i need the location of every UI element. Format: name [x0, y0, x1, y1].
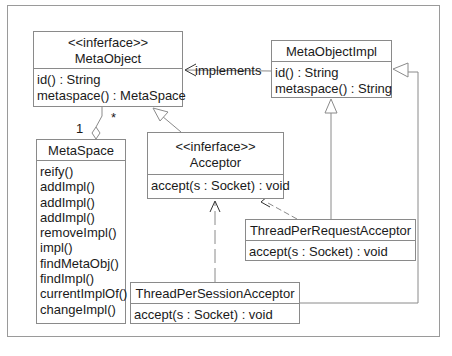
operation: currentImplOf(): [40, 286, 122, 301]
operations-compartment: id() : String metaspace() : String: [272, 62, 391, 98]
operation: findMetaObj(): [40, 256, 122, 271]
operation: accept(s : Socket) : void: [134, 307, 296, 323]
operation: removeImpl(): [40, 225, 122, 240]
class-header: ThreadPerRequestAcceptor: [246, 220, 415, 241]
stereotype-label: <<inferface>>: [36, 35, 180, 51]
class-threadperrequestacceptor[interactable]: ThreadPerRequestAcceptor accept(s : Sock…: [245, 219, 416, 261]
class-name: ThreadPerRequestAcceptor: [248, 223, 413, 239]
class-metaobject[interactable]: <<inferface>> MetaObject id() : String m…: [33, 31, 183, 107]
operation: accept(s : Socket) : void: [249, 244, 412, 260]
class-name: Acceptor: [150, 155, 281, 171]
operation: addImpl(): [40, 210, 122, 225]
stereotype-label: <<inferface>>: [150, 139, 281, 155]
operations-compartment: id() : String metaspace() : MetaSpace: [34, 69, 182, 105]
class-name: MetaSpace: [39, 143, 123, 159]
class-header: <<inferface>> Acceptor: [148, 133, 283, 175]
acceptor-extends-line: [162, 116, 181, 132]
class-name: ThreadPerSessionAcceptor: [133, 286, 297, 302]
aggregation-line: [96, 107, 102, 127]
class-header: ThreadPerSessionAcceptor: [131, 283, 299, 304]
aggregation-diamond-icon: [92, 127, 100, 139]
implements-label: implements: [195, 63, 261, 78]
session-extends-impl-line: [300, 72, 418, 303]
hollow-triangle-icon: [325, 99, 337, 113]
operation: impl(): [40, 240, 122, 255]
operation: id() : String: [37, 72, 179, 88]
operation: accept(s : Socket) : void: [151, 178, 280, 194]
operation: reify(): [40, 164, 122, 179]
operation: metaspace() : MetaSpace: [37, 88, 179, 104]
operation: addImpl(): [40, 179, 122, 194]
operation: id() : String: [275, 65, 388, 81]
operations-compartment: accept(s : Socket) : void: [246, 241, 415, 262]
request-realizes-line: [268, 203, 297, 219]
class-metaspace[interactable]: MetaSpace reify() addImpl() addImpl() ad…: [36, 139, 126, 324]
hollow-triangle-icon: [393, 63, 408, 77]
class-acceptor[interactable]: <<inferface>> Acceptor accept(s : Socket…: [147, 132, 284, 199]
operations-compartment: accept(s : Socket) : void: [148, 175, 283, 196]
operations-compartment: reify() addImpl() addImpl() addImpl() re…: [37, 161, 125, 319]
multiplicity-many-label: *: [111, 110, 116, 125]
class-threadpersessionacceptor[interactable]: ThreadPerSessionAcceptor accept(s : Sock…: [130, 282, 300, 324]
class-header: MetaSpace: [37, 140, 125, 161]
class-metaobjectimpl[interactable]: MetaObjectImpl id() : String metaspace()…: [271, 40, 392, 98]
class-header: <<inferface>> MetaObject: [34, 32, 182, 69]
operation: addImpl(): [40, 195, 122, 210]
class-name: MetaObject: [36, 51, 180, 67]
class-header: MetaObjectImpl: [272, 41, 391, 62]
operation: metaspace() : String: [275, 81, 388, 97]
class-name: MetaObjectImpl: [274, 44, 389, 60]
operations-compartment: accept(s : Socket) : void: [131, 304, 299, 325]
multiplicity-one-label: 1: [76, 121, 83, 136]
operation: changeImpl(): [40, 302, 122, 317]
operation: findImpl(): [40, 271, 122, 286]
